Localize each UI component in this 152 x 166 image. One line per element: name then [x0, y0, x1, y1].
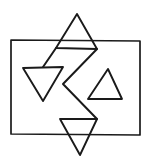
bottom-triangle: [60, 119, 97, 155]
right-triangle: [88, 69, 122, 99]
top-triangle: [56, 14, 97, 49]
central-zigzag: [63, 49, 97, 119]
left-triangle: [23, 67, 63, 101]
line-drawing: [0, 0, 152, 166]
figure-canvas: [0, 0, 152, 166]
central-zigzag-secondary: [43, 48, 56, 67]
outer-rectangle: [11, 40, 140, 135]
